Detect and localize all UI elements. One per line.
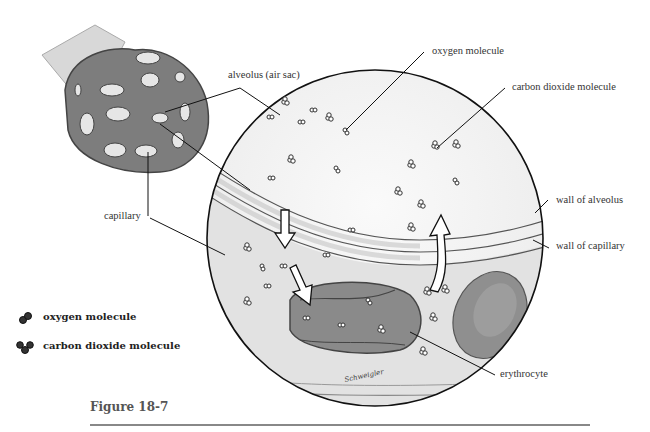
label-carbon-dioxide-molecule: carbon dioxide molecule [512,81,616,92]
label-wall-of-alveolus: wall of alveolus [556,194,623,205]
alveolar-sac-cluster [65,49,208,173]
carbon-dioxide-molecule-icon [17,342,34,354]
legend-carbon-dioxide: carbon dioxide molecule [43,340,180,351]
legend-oxygen: oxygen molecule [43,311,136,322]
label-alveolus: alveolus (air sac) [228,69,300,80]
label-wall-of-capillary: wall of capillary [556,240,625,251]
label-erythrocyte: erythrocyte [500,368,548,379]
gas-exchange-diagram: Schweigler [0,0,650,432]
oxygen-molecule-icon [20,313,32,324]
label-oxygen-molecule: oxygen molecule [432,45,504,56]
figure-caption: Figure 18-7 [90,400,168,414]
label-capillary: capillary [104,210,141,221]
caption-rule [90,424,590,426]
